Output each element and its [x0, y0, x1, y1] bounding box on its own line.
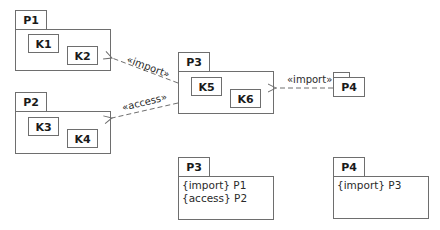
package-name: P1 [23, 14, 39, 27]
class-k2[interactable]: K2 [68, 47, 98, 65]
package-p3[interactable]: P3 K5 K6 [179, 53, 274, 114]
class-name: K2 [74, 50, 90, 63]
summary-line: {import} P1 [182, 179, 246, 191]
class-name: K6 [237, 93, 254, 106]
class-k3[interactable]: K3 [29, 118, 59, 136]
package-p4[interactable]: P4 [334, 73, 365, 97]
package-name: P3 [186, 161, 202, 174]
package-name: P2 [23, 96, 39, 109]
package-name: P3 [186, 56, 202, 69]
package-p1[interactable]: P1 K1 K2 [16, 11, 111, 71]
summary-line: {access} P2 [182, 192, 247, 204]
dependency-label: «import» [125, 54, 171, 80]
class-name: K3 [35, 121, 51, 134]
package-tab [334, 73, 350, 78]
package-p2[interactable]: P2 K3 K4 [16, 93, 111, 154]
package-name: P4 [341, 81, 357, 94]
class-k4[interactable]: K4 [68, 130, 98, 148]
summary-line: {import} P3 [337, 179, 401, 191]
dependency-p3-access-p2[interactable]: «access» [112, 91, 178, 118]
uml-package-diagram: P1 K1 K2 P2 K3 K4 P3 K5 [0, 0, 440, 230]
class-name: K1 [35, 38, 51, 51]
class-k6[interactable]: K6 [231, 90, 261, 108]
dependency-p4-import-p3[interactable]: «import» [276, 74, 333, 88]
dependency-label: «import» [287, 74, 332, 85]
dependency-label: «access» [121, 91, 168, 113]
class-name: K5 [198, 81, 214, 94]
class-k5[interactable]: K5 [192, 78, 222, 96]
package-name: P4 [341, 161, 357, 174]
summary-package-p3[interactable]: P3 {import} P1 {access} P2 [179, 158, 274, 220]
class-name: K4 [74, 133, 91, 146]
class-k1[interactable]: K1 [29, 35, 59, 53]
summary-package-p4[interactable]: P4 {import} P3 [334, 158, 429, 219]
dependency-p3-import-p1[interactable]: «import» [112, 54, 178, 83]
